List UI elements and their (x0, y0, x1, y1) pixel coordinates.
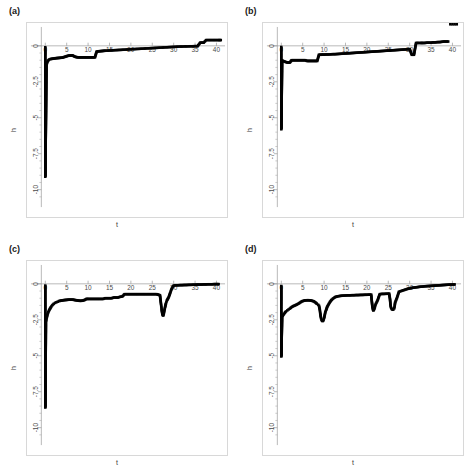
svg-text:0: 0 (32, 282, 39, 286)
panel-d: (d) 05101520253035400-2.5-5-7.5-10 h t (236, 238, 472, 475)
y-axis-label-d: h (246, 366, 253, 370)
svg-text:5: 5 (301, 46, 305, 53)
svg-text:-2.5: -2.5 (268, 314, 275, 325)
svg-text:-10: -10 (32, 423, 39, 433)
plot-area-b: 05101520253035400-2.5-5-7.5-10 (263, 23, 463, 217)
plot-frame-a: 05101520253035400-2.5-5-7.5-10 (26, 22, 228, 218)
svg-text:-5: -5 (32, 114, 39, 120)
panel-label-c: (c) (9, 244, 20, 254)
svg-text:-10: -10 (268, 423, 275, 433)
svg-text:5: 5 (301, 284, 305, 291)
panel-label-b: (b) (245, 6, 257, 16)
panel-label-a: (a) (9, 6, 20, 16)
plot-frame-c: 05101520253035400-2.5-5-7.5-10 (26, 260, 228, 456)
x-axis-label-a: t (97, 221, 137, 228)
svg-text:-7.5: -7.5 (268, 386, 275, 397)
svg-text:10: 10 (321, 46, 329, 53)
plot-svg-c: 05101520253035400-2.5-5-7.5-10 (27, 261, 227, 455)
y-axis-label-c: h (10, 366, 17, 370)
plot-svg-b: 05101520253035400-2.5-5-7.5-10 (263, 23, 463, 217)
plot-svg-d: 05101520253035400-2.5-5-7.5-10 (263, 261, 463, 455)
svg-text:0: 0 (268, 44, 275, 48)
x-axis-label-c: t (97, 459, 137, 466)
plot-area-c: 05101520253035400-2.5-5-7.5-10 (27, 261, 227, 455)
svg-text:10: 10 (85, 284, 93, 291)
svg-text:-7.5: -7.5 (32, 148, 39, 159)
x-axis-label-b: t (333, 221, 373, 228)
svg-text:10: 10 (321, 284, 329, 291)
y-axis-label-b: h (246, 128, 253, 132)
svg-text:-7.5: -7.5 (268, 148, 275, 159)
svg-text:-7.5: -7.5 (32, 386, 39, 397)
panel-label-d: (d) (245, 244, 257, 254)
figure-panel-grid: (a) 05101520253035400-2.5-5-7.5-10 h t (… (0, 0, 472, 475)
plot-svg-a: 05101520253035400-2.5-5-7.5-10 (27, 23, 227, 217)
svg-text:-10: -10 (268, 185, 275, 195)
svg-text:25: 25 (385, 284, 393, 291)
svg-text:0: 0 (32, 44, 39, 48)
panel-b: (b) 05101520253035400-2.5-5-7.5-10 h t (236, 0, 472, 237)
svg-text:35: 35 (427, 46, 435, 53)
svg-text:-5: -5 (268, 352, 275, 358)
plot-frame-b: 05101520253035400-2.5-5-7.5-10 (262, 22, 464, 218)
plot-area-a: 05101520253035400-2.5-5-7.5-10 (27, 23, 227, 217)
x-axis-label-d: t (333, 459, 373, 466)
svg-text:5: 5 (65, 284, 69, 291)
svg-text:5: 5 (65, 46, 69, 53)
svg-text:40: 40 (449, 46, 457, 53)
svg-text:40: 40 (213, 46, 221, 53)
svg-text:-5: -5 (268, 114, 275, 120)
svg-text:15: 15 (342, 284, 350, 291)
svg-text:0: 0 (268, 282, 275, 286)
svg-text:15: 15 (106, 284, 114, 291)
svg-text:20: 20 (363, 284, 371, 291)
svg-text:-10: -10 (32, 185, 39, 195)
panel-c: (c) 05101520253035400-2.5-5-7.5-10 h t (0, 238, 236, 475)
plot-area-d: 05101520253035400-2.5-5-7.5-10 (263, 261, 463, 455)
svg-text:20: 20 (127, 284, 135, 291)
svg-text:-2.5: -2.5 (32, 314, 39, 325)
svg-text:25: 25 (149, 284, 157, 291)
plot-frame-d: 05101520253035400-2.5-5-7.5-10 (262, 260, 464, 456)
svg-text:-5: -5 (32, 352, 39, 358)
svg-text:-2.5: -2.5 (32, 76, 39, 87)
svg-text:10: 10 (85, 46, 93, 53)
panel-a: (a) 05101520253035400-2.5-5-7.5-10 h t (0, 0, 236, 237)
svg-text:-2.5: -2.5 (268, 76, 275, 87)
y-axis-label-a: h (10, 128, 17, 132)
